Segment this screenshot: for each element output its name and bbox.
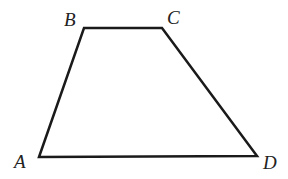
trapezoid-diagram: A B C D <box>0 0 288 179</box>
vertex-label-b: B <box>64 9 76 30</box>
trapezoid-shape <box>39 28 257 157</box>
vertex-label-a: A <box>12 151 26 172</box>
vertex-label-d: D <box>262 152 277 173</box>
vertex-label-c: C <box>167 7 180 28</box>
